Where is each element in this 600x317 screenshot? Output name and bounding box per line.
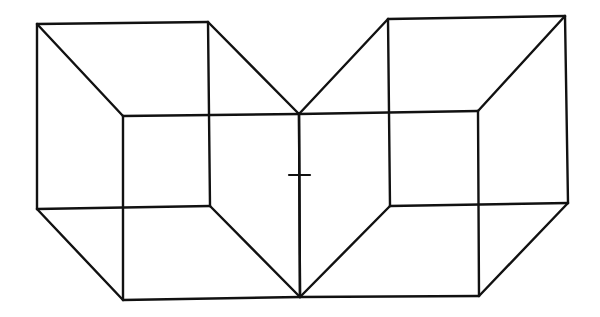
right-cube-depth-edge — [478, 16, 565, 111]
right-cube-front-face-edge — [299, 114, 300, 297]
left-cube-depth-edge — [37, 24, 123, 116]
right-cube-back-face-edge — [565, 16, 568, 203]
right-cube — [299, 16, 568, 297]
double-cube-figure — [0, 0, 600, 317]
right-cube-front-face-edge — [300, 296, 479, 297]
left-cube-depth-edge — [210, 206, 300, 297]
right-cube-depth-edge — [299, 19, 388, 114]
left-cube-depth-edge — [37, 209, 123, 300]
left-cube-depth-edge — [208, 22, 299, 114]
right-cube-depth-edge — [479, 203, 568, 296]
left-cube — [37, 22, 300, 300]
right-cube-back-face-edge — [388, 16, 565, 19]
left-cube-front-face-edge — [123, 114, 299, 116]
right-cube-front-face-edge — [478, 111, 479, 296]
right-cube-front-face-edge — [299, 111, 478, 114]
left-cube-front-face-edge — [123, 297, 300, 300]
right-cube-depth-edge — [300, 206, 390, 297]
left-cube-back-face-edge — [37, 22, 208, 24]
